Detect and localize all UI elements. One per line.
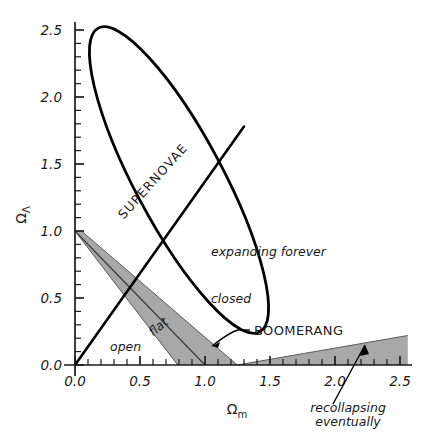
x-axis-title-base: Ω xyxy=(227,401,238,417)
x-tick-label: 0.0 xyxy=(64,373,85,389)
x-axis-tick-labels: 0.0 0.5 1.0 1.5 2.0 2.5 xyxy=(64,373,410,389)
y-tick-label: 0.0 xyxy=(41,357,62,373)
annotation-recollapsing-line1: recollapsing xyxy=(310,400,386,415)
y-axis-tick-labels: 0.0 0.5 1.0 1.5 2.0 2.5 xyxy=(41,22,62,373)
y-axis-title: ΩΛ xyxy=(13,206,32,224)
cosmology-plot-figure: 0.0 0.5 1.0 1.5 2.0 2.5 0.0 0.5 1.0 1.5 … xyxy=(0,0,436,441)
annotation-closed: closed xyxy=(211,291,251,306)
annotation-expanding-forever: expanding forever xyxy=(211,244,327,259)
annotation-supernovae-text: SUPERNOVAE xyxy=(115,140,191,222)
annotation-recollapsing-line2: eventually xyxy=(315,414,381,429)
y-tick-label: 2.0 xyxy=(41,89,62,105)
y-tick-label: 0.5 xyxy=(41,290,62,306)
supernovae-contour xyxy=(59,7,298,352)
y-axis-title-base: Ω xyxy=(13,213,29,224)
y-axis-title-sub: Λ xyxy=(21,206,32,213)
annotation-boomerang-text: BOOMERANG xyxy=(254,323,343,338)
x-axis-title: Ωm xyxy=(227,401,247,420)
y-tick-label: 2.5 xyxy=(41,22,62,38)
svg-text:ΩΛ: ΩΛ xyxy=(13,206,32,224)
annotation-supernovae: SUPERNOVAE xyxy=(115,140,191,222)
x-tick-label: 0.5 xyxy=(129,373,150,389)
y-tick-label: 1.5 xyxy=(41,156,62,172)
y-axis-major-ticks xyxy=(75,30,84,365)
x-tick-label: 1.5 xyxy=(259,373,280,389)
x-axis-title-sub: m xyxy=(237,409,247,420)
x-tick-label: 1.0 xyxy=(194,373,215,389)
y-tick-label: 1.0 xyxy=(41,223,62,239)
x-tick-label: 2.5 xyxy=(389,373,410,389)
svg-text:Ωm: Ωm xyxy=(227,401,247,420)
annotation-boomerang: BOOMERANG xyxy=(212,323,343,348)
annotation-open: open xyxy=(110,339,141,354)
y-axis-minor-ticks xyxy=(75,43,81,351)
plot-canvas: 0.0 0.5 1.0 1.5 2.0 2.5 0.0 0.5 1.0 1.5 … xyxy=(0,0,436,441)
